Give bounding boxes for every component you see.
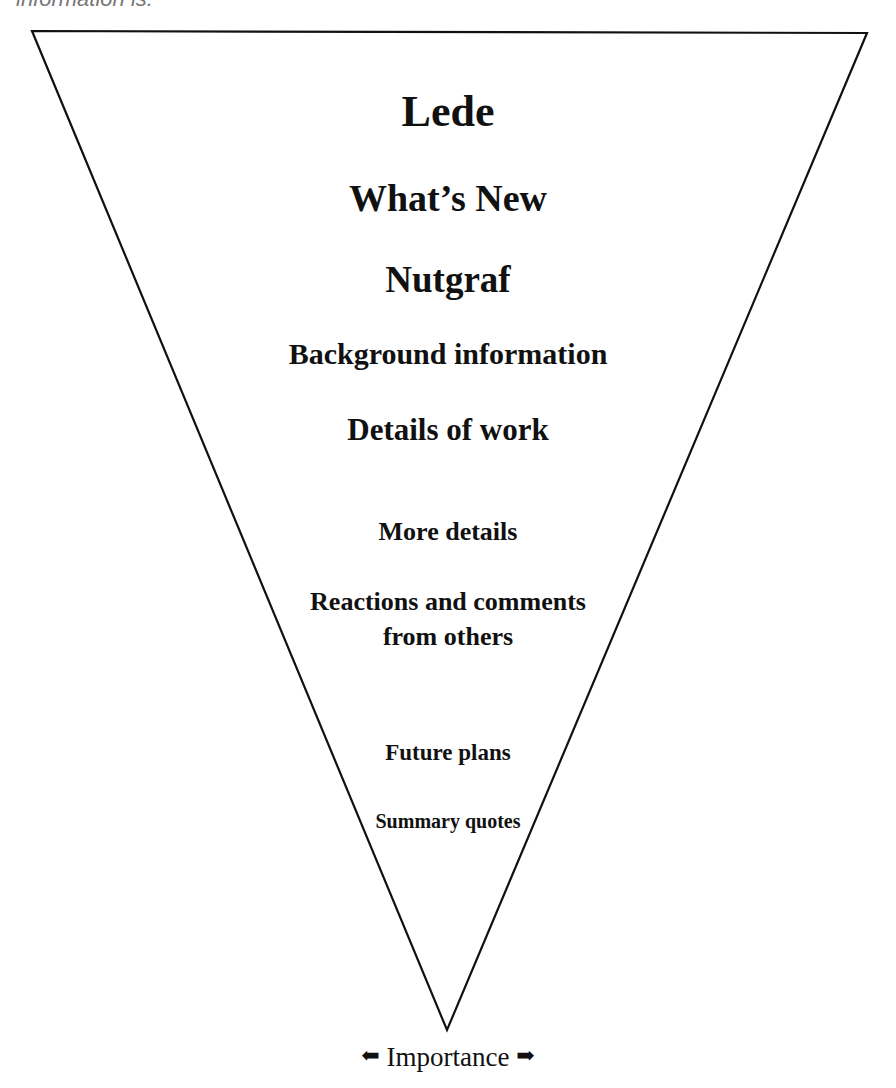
level-reactions-and-comments: Reactions and comments from others: [298, 584, 598, 654]
level-details-of-work: Details of work: [298, 411, 598, 448]
arrow-right-icon: ➡: [516, 1043, 534, 1068]
level-more-details: More details: [0, 518, 896, 547]
level-summary-quotes: Summary quotes: [348, 809, 548, 834]
importance-axis: ⬅ Importance ➡: [0, 1042, 896, 1073]
level-background-information: Background information: [0, 337, 896, 370]
level-future-plans: Future plans: [0, 740, 896, 765]
axis-label: Importance: [387, 1042, 510, 1072]
arrow-left-icon: ⬅: [361, 1043, 379, 1068]
level-whats-new: What’s New: [0, 178, 896, 220]
level-lede: Lede: [0, 88, 896, 136]
level-nutgraf: Nutgraf: [0, 260, 896, 301]
